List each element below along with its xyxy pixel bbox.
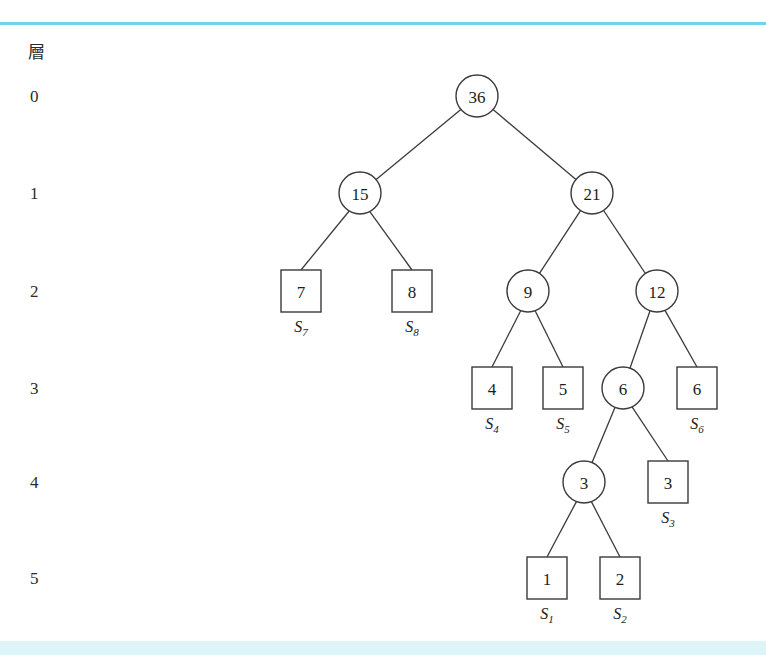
- leaf-node-S1: 1S1: [527, 557, 567, 625]
- node-value: 3: [664, 474, 673, 493]
- leaf-node-S8: 8S8: [392, 270, 432, 338]
- tree-edge-n9-l5: [535, 311, 563, 367]
- leaf-symbol-subscript: 7: [302, 326, 308, 338]
- node-value: 6: [693, 380, 702, 399]
- node-value: 8: [408, 283, 417, 302]
- leaf-symbol-subscript: 6: [698, 423, 704, 435]
- leaf-node-S4: 4S4: [472, 367, 512, 435]
- tree-edge-n9-l4: [492, 311, 521, 367]
- tree-edge-n21-n12: [604, 211, 646, 274]
- internal-node-9-l2: 9: [507, 270, 549, 312]
- tree-edge-n15-l8: [370, 212, 412, 270]
- node-value: 12: [649, 283, 666, 302]
- leaf-symbol-label: S7: [294, 318, 308, 338]
- leaf-symbol-letter: S: [294, 318, 302, 335]
- node-value: 6: [619, 380, 628, 399]
- node-value: 4: [488, 380, 497, 399]
- leaf-symbol-letter: S: [556, 415, 564, 432]
- leaf-symbol-letter: S: [690, 415, 698, 432]
- node-value: 36: [469, 88, 486, 107]
- leaf-symbol-letter: S: [540, 605, 548, 622]
- leaf-symbol-letter: S: [613, 605, 621, 622]
- internal-node-3-l4: 3: [563, 461, 605, 503]
- internal-node-6-l3: 6: [602, 367, 644, 409]
- node-value: 1: [543, 570, 552, 589]
- tree-edge-n3-l1: [547, 502, 576, 557]
- leaf-node-S2: 2S2: [600, 557, 640, 625]
- tree-edge-n36-n15: [376, 109, 461, 179]
- leaf-symbol-label: S4: [485, 415, 499, 435]
- tree-edge-n36-n21: [493, 110, 576, 180]
- tree-edge-n21-n9: [539, 211, 580, 274]
- leaf-symbol-letter: S: [485, 415, 493, 432]
- leaf-symbol-label: S2: [613, 605, 627, 625]
- node-value: 21: [584, 185, 601, 204]
- leaf-symbol-subscript: 5: [564, 423, 570, 435]
- tree-nodes: 361521912637S78S84S45S56S63S31S12S2: [281, 75, 717, 625]
- leaf-symbol-label: S8: [405, 318, 419, 338]
- node-value: 7: [297, 283, 306, 302]
- tree-edge-n15-l7: [301, 211, 349, 270]
- leaf-symbol-subscript: 8: [413, 326, 419, 338]
- leaf-symbol-subscript: 4: [493, 423, 499, 435]
- internal-node-12-l2: 12: [636, 270, 678, 312]
- tree-edge-n6-n3: [592, 407, 615, 462]
- leaf-symbol-label: S3: [661, 509, 675, 529]
- tree-edge-n3-l2: [591, 502, 620, 557]
- internal-node-15-l1: 15: [339, 172, 381, 214]
- leaf-symbol-label: S6: [690, 415, 704, 435]
- leaf-symbol-letter: S: [661, 509, 669, 526]
- leaf-node-S7: 7S7: [281, 270, 321, 338]
- tree-edge-n12-n6: [630, 311, 650, 368]
- leaf-node-S6: 6S6: [677, 367, 717, 435]
- node-value: 15: [352, 185, 369, 204]
- tree-canvas: 361521912637S78S84S45S56S63S31S12S2: [0, 0, 766, 655]
- node-value: 5: [559, 380, 568, 399]
- huffman-tree-figure: 層 012345 361521912637S78S84S45S56S63S31S…: [0, 0, 766, 655]
- node-value: 9: [524, 283, 533, 302]
- leaf-symbol-label: S1: [540, 605, 554, 625]
- leaf-symbol-label: S5: [556, 415, 570, 435]
- node-value: 2: [616, 570, 625, 589]
- internal-node-36-l0: 36: [456, 75, 498, 117]
- leaf-symbol-subscript: 2: [621, 613, 627, 625]
- leaf-symbol-subscript: 3: [668, 517, 675, 529]
- leaf-symbol-letter: S: [405, 318, 413, 335]
- leaf-symbol-subscript: 1: [548, 613, 554, 625]
- leaf-node-S3: 3S3: [648, 461, 688, 529]
- leaf-node-S5: 5S5: [543, 367, 583, 435]
- tree-edge-n12-l6: [665, 310, 697, 367]
- node-value: 3: [580, 474, 589, 493]
- internal-node-21-l1: 21: [571, 172, 613, 214]
- tree-edge-n6-l3: [632, 407, 668, 461]
